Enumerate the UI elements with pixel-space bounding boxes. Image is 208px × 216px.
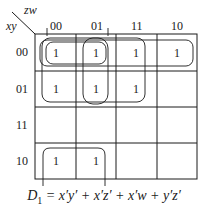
cell-00-01: 1 [76, 35, 116, 71]
row-label-10: 10 [16, 155, 28, 167]
col-label-00: 00 [50, 20, 62, 32]
col-label-01: 01 [91, 20, 103, 32]
cell-10-11 [116, 143, 156, 179]
cell-00-00: 1 [36, 35, 76, 71]
row-var-label: xy [6, 20, 17, 32]
cell-10-00: 1 [36, 143, 76, 179]
row-label-11: 11 [16, 119, 28, 131]
equation-lhs: D [27, 188, 37, 203]
col-var-label: zw [24, 4, 37, 16]
equation-rhs: = x′y′ + x′z′ + x′w + y′z′ [42, 188, 181, 203]
equation: D1 = x′y′ + x′z′ + x′w + y′z′ [0, 188, 208, 206]
cell-11-11 [116, 107, 156, 143]
cell-01-11: 1 [116, 71, 156, 107]
col-label-11: 11 [131, 20, 143, 32]
row-label-00: 00 [16, 46, 28, 58]
cell-01-10 [157, 71, 197, 107]
cell-01-00: 1 [36, 71, 76, 107]
cell-01-01: 1 [76, 71, 116, 107]
cell-10-01: 1 [76, 143, 116, 179]
cell-11-10 [157, 107, 197, 143]
cell-11-00 [36, 107, 76, 143]
cell-00-11: 1 [116, 35, 156, 71]
col-label-10: 10 [171, 20, 183, 32]
cell-00-10: 1 [157, 35, 197, 71]
row-label-01: 01 [16, 83, 28, 95]
cell-11-01 [76, 107, 116, 143]
cell-10-10 [157, 143, 197, 179]
